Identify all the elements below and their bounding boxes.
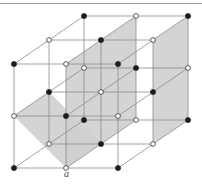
white-atom-icon [116, 114, 121, 119]
lattice-edge [49, 16, 84, 40]
black-atom-icon [46, 89, 51, 94]
black-atom-icon [98, 141, 103, 146]
black-atom-icon [63, 113, 68, 118]
white-atom-icon [47, 38, 52, 43]
black-atom-icon [133, 65, 138, 70]
figure-label: a [64, 168, 69, 179]
white-atom-icon [47, 142, 52, 147]
black-atom-icon [98, 37, 103, 42]
lattice-edge [14, 144, 49, 168]
white-atom-icon [151, 38, 156, 43]
white-atom-icon [64, 62, 69, 67]
white-atom-icon [12, 114, 17, 119]
black-atom-icon [115, 61, 120, 66]
black-atom-icon [11, 61, 16, 66]
white-atom-icon [151, 142, 156, 147]
black-atom-icon [81, 117, 86, 122]
white-atom-icon [186, 66, 191, 71]
lattice-edge [14, 40, 49, 64]
white-atom-icon [134, 14, 139, 19]
black-atom-icon [115, 165, 120, 170]
white-atom-icon [134, 118, 139, 123]
crystal-lattice-diagram [0, 0, 202, 184]
lattice-edge [118, 144, 153, 168]
white-atom-icon [82, 66, 87, 71]
black-atom-icon [185, 117, 190, 122]
black-atom-icon [11, 165, 16, 170]
white-atom-icon [99, 90, 104, 95]
black-atom-icon [81, 13, 86, 18]
black-atom-icon [150, 89, 155, 94]
black-atom-icon [185, 13, 190, 18]
